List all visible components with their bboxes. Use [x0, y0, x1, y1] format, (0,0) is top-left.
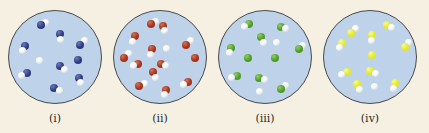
heavy-atom: [347, 29, 355, 37]
hydrogen-atom: [388, 24, 395, 31]
panel-2: (ii): [107, 0, 213, 133]
hydrogen-atom: [390, 85, 397, 92]
hydrogen-atom: [56, 87, 63, 94]
hydrogen-atom: [180, 81, 187, 88]
heavy-atom: [147, 20, 155, 28]
hydrogen-atom: [261, 76, 268, 83]
hydrogen-atom: [226, 49, 233, 56]
hydrogen-atom: [130, 62, 137, 69]
heavy-atom: [277, 85, 285, 93]
heavy-atom: [191, 54, 199, 62]
heavy-atom: [368, 51, 376, 59]
heavy-atom: [74, 56, 82, 64]
hydrogen-atom: [241, 23, 248, 30]
hydrogen-atom: [147, 51, 154, 58]
panel-3: (iii): [212, 0, 318, 133]
hydrogen-atom: [372, 70, 379, 77]
heavy-atom: [244, 54, 252, 62]
hydrogen-atom: [260, 39, 267, 46]
panel-label: (iii): [212, 112, 318, 125]
container-circle: [218, 10, 312, 104]
panel-4: (iv): [317, 0, 423, 133]
panel-1: (i): [2, 0, 108, 133]
panel-label: (iv): [317, 112, 423, 125]
panel-label: (ii): [107, 112, 213, 125]
hydrogen-atom: [338, 71, 345, 78]
heavy-atom: [401, 43, 409, 51]
heavy-atom: [37, 21, 45, 29]
hydrogen-atom: [129, 38, 136, 45]
hydrogen-atom: [152, 74, 159, 81]
hydrogen-atom: [371, 83, 378, 90]
panel-label: (i): [2, 112, 108, 125]
